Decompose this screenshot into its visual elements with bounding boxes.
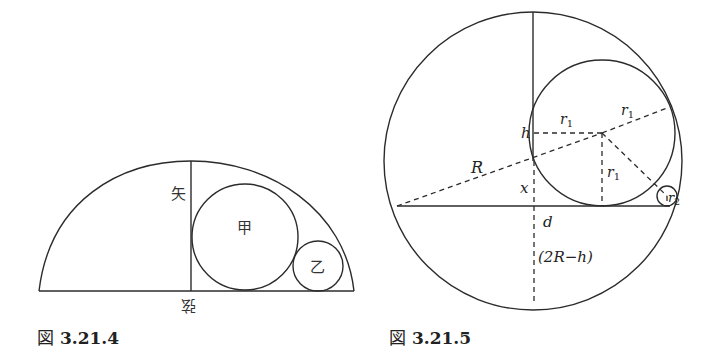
geometry-figures: 矢 甲 乙 弦 h r1 r1 r1 R x r2 d (2R−h) [0, 0, 708, 356]
circle-kou [192, 184, 298, 290]
label-r1-vertical: r1 [607, 164, 620, 182]
figure-3-21-5: h r1 r1 r1 R x r2 d (2R−h) [384, 12, 682, 310]
caption-prefix: 図 [389, 328, 406, 348]
label-h: h [521, 124, 531, 142]
label-R: R [470, 158, 483, 177]
label-r1-horizontal: r1 [560, 111, 573, 129]
label-d: d [543, 213, 553, 231]
caption-fig-3-21-4: 図 3.21.4 [37, 324, 119, 349]
dashed-R-line [397, 133, 602, 206]
segment-arc [39, 161, 354, 291]
label-2R-minus-h: (2R−h) [538, 248, 593, 266]
figure-3-21-4: 矢 甲 乙 弦 [39, 161, 354, 315]
label-x: x [520, 179, 529, 197]
label-ya: 矢 [171, 185, 186, 203]
label-gen: 弦 [181, 297, 196, 315]
label-r1-diagonal: r1 [621, 102, 634, 120]
caption-fig-3-21-5: 図 3.21.5 [389, 324, 471, 349]
label-kou: 甲 [237, 219, 252, 237]
caption-number: 3.21.5 [412, 328, 471, 348]
caption-prefix: 図 [37, 328, 54, 348]
dashed-r1-outer [602, 108, 667, 133]
caption-number: 3.21.4 [60, 328, 119, 348]
label-otsu: 乙 [310, 258, 325, 276]
